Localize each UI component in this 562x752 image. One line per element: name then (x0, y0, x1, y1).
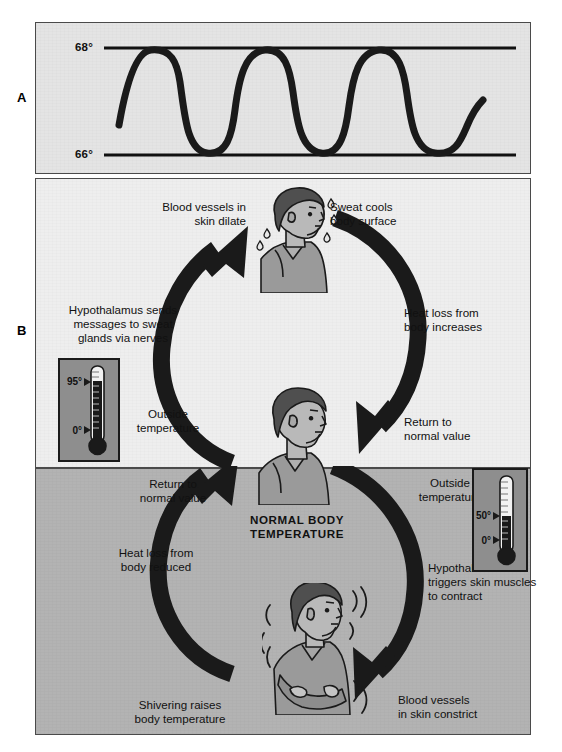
panel-label-a: A (17, 90, 26, 105)
caption-vessels-dilate: Blood vessels in skin dilate (120, 200, 246, 228)
caption-heat-loss-reduced: Heat loss from body reduced (96, 546, 216, 574)
caption-heat-loss-increases: Heat loss from body increases (404, 306, 524, 334)
caption-sweat-cools: Sweat cools body surface (330, 200, 456, 228)
caption-outside-temperature-hot: Outside temperature (120, 407, 216, 435)
caption-vessels-constrict: Blood vessels in skin constrict (398, 693, 528, 721)
figure-sweating-person (245, 185, 341, 293)
caption-normal-body-temperature: NORMAL BODY TEMPERATURE (222, 513, 372, 541)
figure-normal-person (245, 375, 341, 505)
panel-label-b: B (17, 323, 26, 338)
thermoregulation-figure: A B 68° 66° (0, 0, 562, 752)
caption-hypothalamus-sweat: Hypothalamus sends messages to sweat gla… (48, 303, 198, 346)
thermometer-hot-high-label: 95° (67, 376, 82, 387)
thermometer-cold-high-label: 50° (476, 510, 491, 521)
thermometer-cold: 50° 0° (472, 468, 528, 572)
oscillation-graph-svg (35, 22, 531, 174)
temperature-trace (119, 50, 483, 154)
thermometer-hot-low-label: 0° (72, 425, 82, 436)
thermometer-cold-low-label: 0° (481, 535, 491, 546)
caption-return-to-normal-cold: Return to normal value (118, 477, 228, 505)
thermometer-hot: 95° 0° (58, 358, 120, 462)
caption-return-to-normal-hot: Return to normal value (404, 415, 516, 443)
figure-shivering-person (262, 583, 380, 715)
caption-shivering-raises: Shivering raises body temperature (110, 698, 250, 726)
